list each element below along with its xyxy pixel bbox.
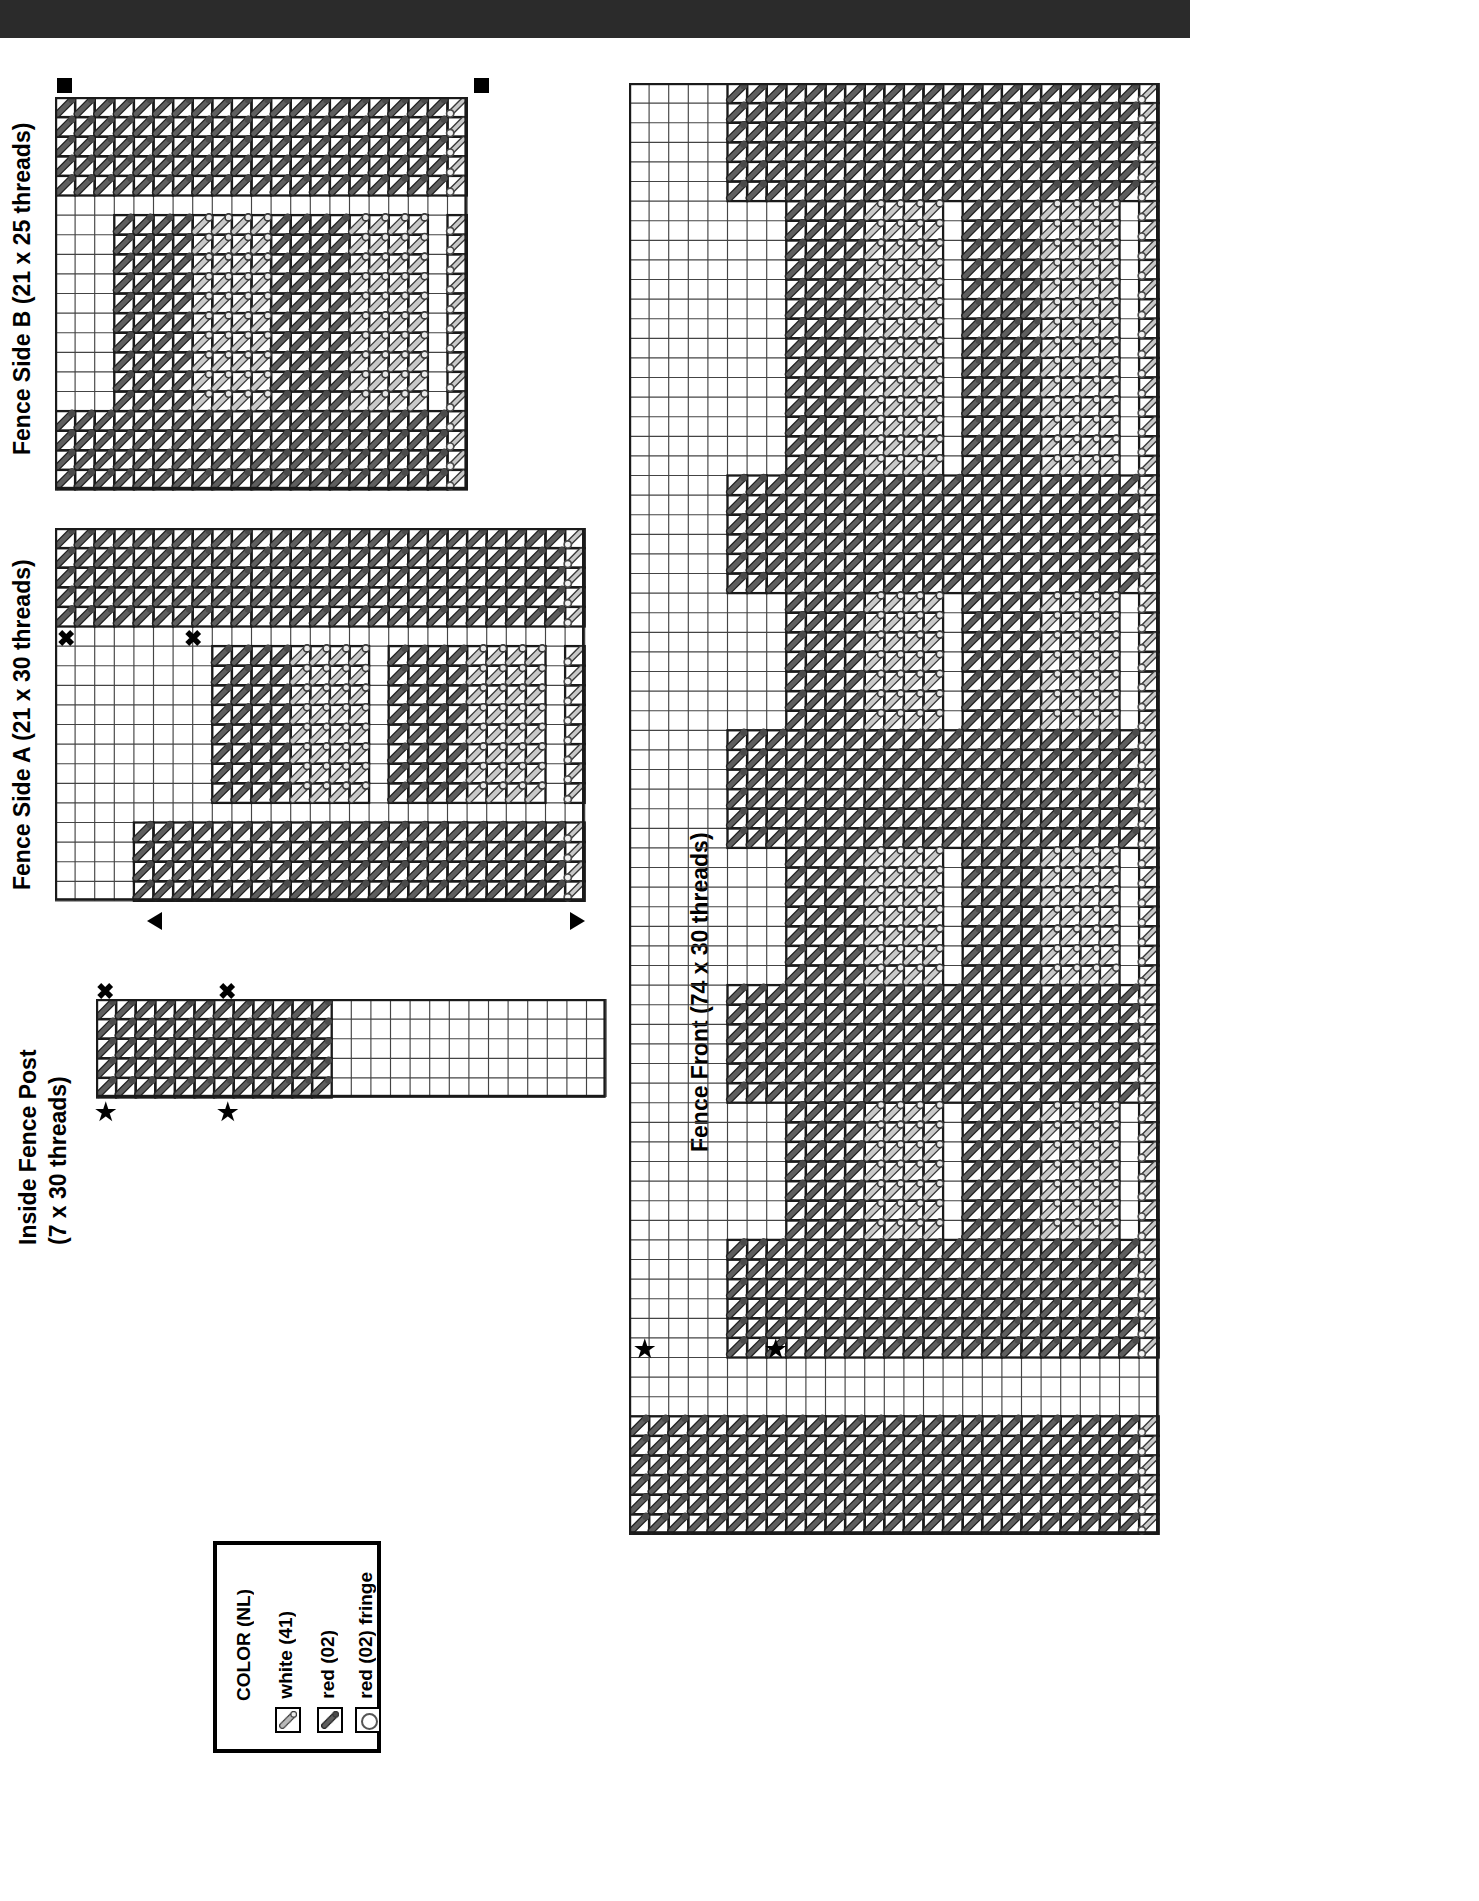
- marker-star: ★: [765, 1337, 787, 1361]
- marker-star: ★: [634, 1337, 656, 1361]
- legend-header-label: COLOR (NL): [233, 1589, 255, 1701]
- stitch-grid: [629, 83, 1160, 1535]
- title-fence-side-b: Fence Side B (21 x 25 threads): [8, 123, 37, 455]
- legend-header: COLOR (NL): [233, 1557, 255, 1733]
- top-right-whitespace: [1190, 0, 1479, 38]
- marker-square: [474, 78, 489, 93]
- diagonal-stitch-icon: [321, 1711, 339, 1729]
- legend-entry: red (02): [317, 1557, 343, 1733]
- marker-star: ★: [95, 1100, 117, 1124]
- marker-x: ✖: [184, 628, 202, 650]
- marker-x: ✖: [57, 628, 75, 650]
- chart-fence-front: ★★: [629, 83, 1158, 1533]
- legend-entry-label: red (02) fringe: [355, 1572, 377, 1699]
- legend-swatch-diagonal-light: [275, 1707, 301, 1733]
- circle-icon: [361, 1713, 378, 1730]
- legend-swatch-diagonal-dark: [317, 1707, 343, 1733]
- marker-x: ✖: [218, 981, 236, 1003]
- legend-entry-label: red (02): [317, 1630, 339, 1699]
- marker-triangle-left: [147, 912, 162, 930]
- legend-entry: red (02) fringe: [355, 1557, 381, 1733]
- title-fence-side-a: Fence Side A (21 x 30 threads): [8, 559, 37, 890]
- marker-x: ✖: [96, 981, 114, 1003]
- marker-triangle-right: [570, 912, 585, 930]
- marker-square: [57, 78, 72, 93]
- color-legend: COLOR (NL)white (41)red (02)red (02) fri…: [213, 1541, 381, 1753]
- chart-fence-side-a: ✖✖: [55, 528, 584, 900]
- legend-entry: white (41): [275, 1557, 301, 1733]
- marker-star: ★: [217, 1100, 239, 1124]
- title-inside-fence-post-line2: (7 x 30 threads): [44, 1076, 73, 1245]
- diagonal-stitch-icon: [279, 1711, 297, 1729]
- legend-swatch-circle-open: [355, 1707, 381, 1733]
- top-black-bar: [0, 0, 1190, 38]
- stitch-grid: [55, 528, 586, 902]
- title-inside-fence-post-line1: Inside Fence Post: [14, 1049, 43, 1245]
- legend-entry-label: white (41): [275, 1611, 297, 1699]
- stitch-grid: [55, 97, 468, 491]
- stitch-grid: [96, 999, 607, 1099]
- chart-inside-fence-post: ✖✖★★: [96, 999, 606, 1097]
- chart-fence-side-b: [55, 97, 467, 489]
